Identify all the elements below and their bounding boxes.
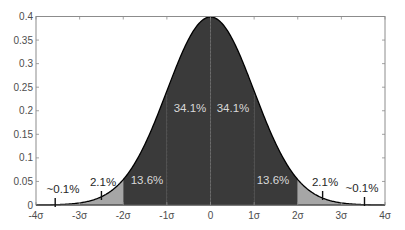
y-tick-label: 0.15: [14, 129, 34, 140]
x-tick-label: 2σ: [292, 210, 305, 221]
percent-label: 2.1%: [90, 176, 116, 188]
y-tick-label: 0.05: [14, 176, 34, 187]
y-tick-label: 0.2: [19, 105, 33, 116]
percent-label: 13.6%: [131, 174, 164, 186]
y-tick-label: 0.3: [19, 58, 33, 69]
y-tick-label: 0.25: [14, 82, 34, 93]
y-tick-label: 0: [27, 200, 33, 211]
percent-label: 13.6%: [257, 174, 290, 186]
y-tick-label: 0.1: [19, 152, 33, 163]
y-tick-label: 0.35: [14, 35, 34, 46]
percent-label: 34.1%: [174, 102, 207, 114]
normal-distribution-chart: 00.050.10.150.20.250.30.350.4 -4σ-3σ-2σ-…: [0, 0, 405, 230]
percent-label: 2.1%: [312, 176, 338, 188]
x-tick-label: 0: [208, 210, 214, 221]
x-tick-label: -1σ: [159, 210, 175, 221]
y-tick-label: 0.4: [19, 11, 33, 22]
x-tick-label: 4σ: [379, 210, 392, 221]
x-tick-label: 3σ: [336, 210, 349, 221]
x-tick-label: -2σ: [116, 210, 132, 221]
x-tick-label: -3σ: [72, 210, 88, 221]
x-tick-label: -4σ: [28, 210, 44, 221]
percent-label: ~0.1%: [346, 182, 379, 194]
x-tick-label: 1σ: [248, 210, 261, 221]
percent-label: 34.1%: [217, 102, 250, 114]
percent-label: ~0.1%: [47, 183, 80, 195]
